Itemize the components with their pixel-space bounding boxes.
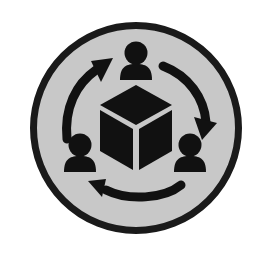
person-bottom-left-head	[69, 134, 92, 157]
person-top-head	[125, 42, 148, 65]
icon-canvas: Collaboration network icon Circular badg…	[0, 0, 265, 255]
collaboration-network-icon	[0, 0, 265, 255]
person-bottom-right-head	[179, 134, 202, 157]
